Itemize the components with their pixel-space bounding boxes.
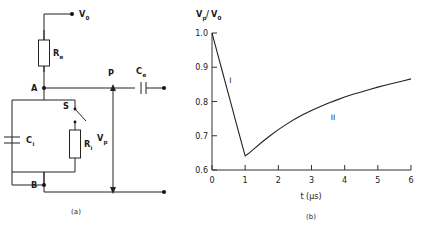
y-tick-label-1: 0.7	[195, 132, 208, 141]
external-capacitor-label: C	[136, 66, 142, 76]
external-capacitor-sublabel: e	[143, 72, 147, 78]
v0-terminal-dot	[70, 12, 74, 16]
data-curve-vp-v0	[212, 33, 411, 156]
y-axis-title-slash: /	[206, 9, 209, 19]
x-tick-label-4: 4	[342, 176, 347, 185]
wire-switch-top	[44, 100, 75, 108]
panel-b-caption: (b)	[306, 213, 316, 221]
branch-label-ii: II	[331, 113, 335, 122]
y-tick-label-4: 1.0	[195, 29, 208, 38]
internal-resistor-body	[70, 130, 81, 158]
x-tick-label-0: 0	[209, 176, 214, 185]
y-tick-label-2: 0.8	[195, 98, 208, 107]
x-tick-label-6: 6	[408, 176, 413, 185]
vp-sublabel: p	[104, 139, 108, 146]
switch-blade	[75, 109, 86, 121]
external-resistor-sublabel: e	[60, 54, 64, 60]
y-tick-label-3: 0.9	[195, 63, 208, 72]
branch-label-i: I	[229, 76, 231, 85]
x-tick-label-3: 3	[309, 176, 314, 185]
x-tick-label-2: 2	[276, 176, 281, 185]
v0-terminal-sublabel: 0	[86, 15, 90, 21]
panel-a-caption: (a)	[71, 208, 81, 216]
internal-capacitor-sublabel: i	[33, 141, 35, 147]
switch-label: S	[63, 101, 69, 111]
x-tick-label-5: 5	[375, 176, 380, 185]
node-b-label: B	[31, 180, 37, 190]
y-axis-title-sub2: 0	[218, 15, 222, 21]
point-p-label: P	[108, 68, 114, 78]
panel-a-circuit: V 0 R e A C e P C i S	[4, 9, 166, 216]
node-a-label: A	[31, 83, 38, 93]
output-terminal-top-dot	[162, 86, 166, 90]
x-axis-ticks	[212, 165, 411, 170]
external-resistor-body	[39, 40, 50, 66]
vp-arrow-head-down	[110, 187, 116, 194]
y-tick-label-0: 0.6	[195, 166, 208, 175]
switch-pivot-dot	[74, 108, 77, 111]
output-terminal-bottom-dot	[162, 190, 166, 194]
x-tick-label-1: 1	[243, 176, 248, 185]
y-axis-ticks	[212, 33, 217, 170]
x-axis-title: t (µs)	[300, 192, 321, 201]
panel-b-chart: V p / V 0 0.6 0.7 0.8 0.9 1.0	[195, 9, 413, 221]
internal-capacitor-label: C	[26, 135, 32, 145]
figure-container: V 0 R e A C e P C i S	[0, 0, 424, 228]
internal-resistor-sublabel: i	[91, 145, 93, 151]
